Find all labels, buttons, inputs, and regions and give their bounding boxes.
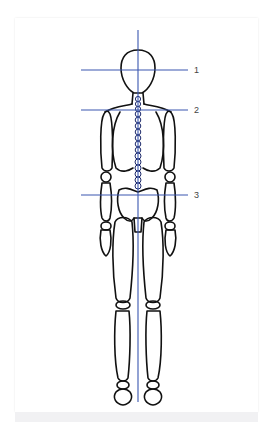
left-elbow xyxy=(101,172,111,182)
right-elbow xyxy=(165,172,175,182)
right-ankle xyxy=(147,381,159,389)
right-thigh xyxy=(143,218,163,303)
right-wrist xyxy=(165,222,175,230)
guide-label-1: 1 xyxy=(194,65,199,75)
right-upper-arm xyxy=(163,111,175,171)
left-thigh xyxy=(113,218,133,303)
left-shin xyxy=(115,311,130,381)
right-hand xyxy=(165,230,176,256)
left-upper-arm xyxy=(101,111,113,171)
right-forearm xyxy=(165,183,176,221)
guide-label-2: 2 xyxy=(194,105,199,115)
left-wrist xyxy=(101,222,111,230)
right-shin xyxy=(146,311,161,381)
guide-label-3: 3 xyxy=(194,190,199,200)
left-hand xyxy=(100,230,111,256)
right-foot xyxy=(144,389,161,405)
left-ankle xyxy=(117,381,129,389)
guide-lines xyxy=(81,30,188,402)
left-forearm xyxy=(101,183,112,221)
left-foot xyxy=(114,389,131,405)
skeleton-diagram: 1 2 3 xyxy=(0,0,271,422)
